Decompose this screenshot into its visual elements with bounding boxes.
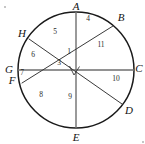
scan-speck (142, 141, 144, 143)
circle-geometry-figure: A B C D E F G H 1 3 4 5 6 7 8 9 10 11 (0, 0, 145, 144)
chord-FB (22, 26, 113, 83)
scan-speck (4, 6, 6, 8)
figure-canvas (0, 0, 145, 144)
